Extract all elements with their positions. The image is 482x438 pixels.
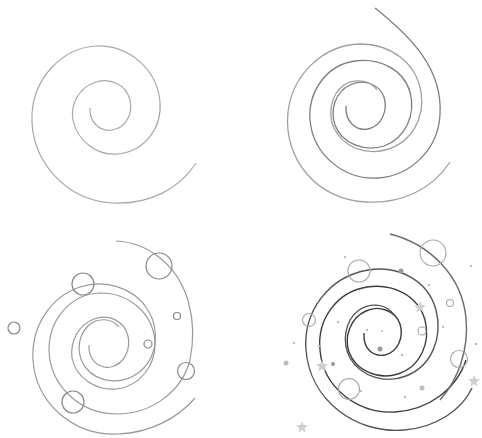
planet-circle [8, 322, 20, 334]
panel-step-3 [8, 241, 195, 434]
dot [428, 284, 430, 286]
panel-step-2 [288, 8, 450, 202]
spiral-arm-inner [49, 241, 193, 414]
spiral-steps-illustration: How to draw a spiral galaxy - 4 steps [0, 0, 482, 438]
planet-circle [174, 313, 181, 320]
planet-circle [348, 260, 370, 282]
dot [318, 345, 320, 347]
planet-circle [451, 351, 468, 368]
star-icon [468, 375, 480, 387]
dot [475, 343, 477, 345]
dot [420, 386, 425, 391]
panel-step-1 [32, 46, 196, 203]
dot [470, 265, 472, 267]
dot [344, 256, 346, 258]
spiral-arm-outer [33, 284, 195, 434]
star-icon [316, 360, 328, 372]
spiral-arm [32, 46, 196, 203]
dot [442, 326, 444, 328]
spiral-arm-outer [306, 269, 472, 430]
spiral-arm-inner [320, 286, 466, 412]
dot [401, 354, 403, 356]
dot [366, 329, 368, 331]
planet-circle [144, 340, 152, 348]
planet-circle [420, 240, 446, 266]
dot [399, 269, 404, 274]
spiral-arm-outermost [390, 234, 466, 400]
dot [331, 362, 335, 366]
dot [284, 361, 289, 366]
dot [381, 330, 383, 332]
planet-circle [339, 379, 360, 400]
planet-circle [418, 327, 426, 335]
dot [404, 396, 406, 398]
planet-circle [62, 391, 84, 413]
dot [337, 321, 339, 323]
star-icon [296, 421, 308, 433]
panel-step-4 [284, 234, 481, 433]
dot [378, 347, 383, 352]
dot [360, 390, 362, 392]
dot [293, 342, 295, 344]
spiral-canvas [0, 0, 482, 438]
planet-circle [447, 300, 454, 307]
